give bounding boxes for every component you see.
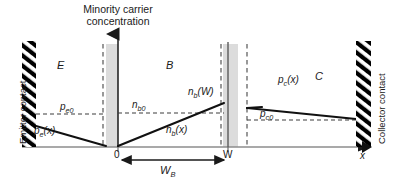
base-width-label-sym: W xyxy=(160,164,170,176)
minority-carrier-concentration-figure: Minority carrier concentration Emitter c… xyxy=(0,0,398,185)
label-collector-profile: pc(x) xyxy=(278,74,299,88)
label-base-equilibrium: nb0 xyxy=(132,99,146,113)
base-width-label: WB xyxy=(160,164,175,180)
axis-label-x: x xyxy=(360,150,365,161)
label-base-at-w: nb(W) xyxy=(188,86,214,100)
region-label-emitter: E xyxy=(57,59,64,71)
depletion-region-base-collector xyxy=(223,44,238,147)
label-emitter-profile: pe(x) xyxy=(34,125,55,139)
label-base-profile-arg: (x) xyxy=(176,124,188,135)
emitter-contact-label: Emitter contact xyxy=(18,81,29,144)
label-base-equilibrium-sub: b0 xyxy=(138,104,146,113)
axis-tick-origin: 0 xyxy=(114,149,120,160)
figure-title: Minority carrier concentration xyxy=(58,4,178,28)
depletion-region-emitter-base xyxy=(106,44,118,147)
label-base-profile: nb(x) xyxy=(166,124,187,138)
axis-ticks xyxy=(118,147,228,152)
label-emitter-equilibrium-sub: e0 xyxy=(66,106,74,115)
axis-tick-w: W xyxy=(223,149,232,160)
label-collector-equilibrium-sub: c0 xyxy=(266,113,274,122)
figure-title-line1: Minority carrier xyxy=(58,4,178,16)
region-label-base: B xyxy=(166,59,173,71)
label-base-at-w-arg: (W) xyxy=(198,86,214,97)
label-emitter-equilibrium: pe0 xyxy=(60,101,74,115)
region-label-collector: C xyxy=(315,70,323,82)
base-width-label-sub: B xyxy=(170,170,175,179)
collector-contact-hatch xyxy=(356,41,371,147)
label-collector-profile-arg: (x) xyxy=(287,74,299,85)
label-collector-equilibrium: pc0 xyxy=(260,108,273,122)
label-emitter-profile-arg: (x) xyxy=(44,125,56,136)
collector-contact-label: Collector contact xyxy=(377,73,388,144)
x-axis-line xyxy=(22,143,370,152)
figure-title-line2: concentration xyxy=(58,16,178,28)
